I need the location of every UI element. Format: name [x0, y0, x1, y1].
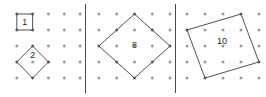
area-label-1: 1: [22, 17, 27, 27]
panel-1: 1 2: [4, 4, 86, 93]
shape-small-diamond: 2: [16, 45, 50, 80]
shape-tilted-square: 10: [186, 13, 261, 80]
geoboard-figure: 1 2: [0, 0, 266, 97]
panel-3: 10: [176, 4, 262, 93]
area-label-8: 8: [132, 40, 137, 50]
panel-row: 1 2: [4, 4, 262, 93]
area-label-2: 2: [30, 50, 35, 60]
area-label-10: 10: [217, 36, 227, 46]
shape-unit-square: 1: [16, 13, 34, 32]
panel-3-canvas: 10: [176, 4, 262, 93]
panel-2: 8: [86, 4, 176, 93]
panel-2-canvas: 8: [86, 4, 175, 93]
shape-large-diamond: 8: [98, 13, 172, 80]
panel-1-canvas: 1 2: [4, 4, 85, 93]
